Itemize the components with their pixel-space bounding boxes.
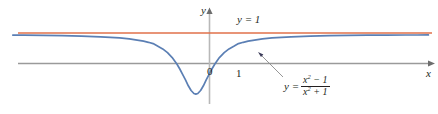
equation-lhs: y = bbox=[284, 81, 299, 92]
x-axis-arrowhead bbox=[428, 60, 435, 66]
y-axis-label: y bbox=[201, 5, 206, 16]
numerator-exponent: 2 bbox=[308, 73, 311, 80]
denominator-exponent: 2 bbox=[308, 84, 311, 91]
function-curve bbox=[13, 35, 429, 94]
fraction-numerator: x2 − 1 bbox=[301, 75, 329, 86]
asymptote-label: y = 1 bbox=[237, 14, 260, 25]
y-axis-arrowhead bbox=[206, 8, 212, 15]
x-intercept-label: 1 bbox=[236, 68, 242, 79]
function-graph-figure: y x y = 1 0 1 y = x2 − 1 x2 + 1 bbox=[0, 0, 438, 114]
plot-area bbox=[0, 0, 438, 114]
denominator-rest: + 1 bbox=[313, 86, 327, 97]
x-axis-label: x bbox=[426, 68, 431, 79]
numerator-rest: − 1 bbox=[313, 74, 327, 85]
origin-label: 0 bbox=[207, 66, 213, 77]
fraction-denominator: x2 + 1 bbox=[301, 86, 329, 98]
curve-equation-label: y = x2 − 1 x2 + 1 bbox=[284, 75, 330, 97]
equation-leader-line bbox=[260, 54, 284, 78]
equation-fraction: x2 − 1 x2 + 1 bbox=[301, 75, 329, 97]
